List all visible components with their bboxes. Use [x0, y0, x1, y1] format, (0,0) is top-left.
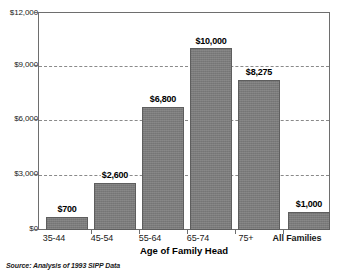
y-tick-label-12000: $12,000: [2, 9, 38, 17]
x-tick-label-all-families: All Families: [263, 233, 331, 243]
bar-value-35-44: $700: [56, 205, 77, 214]
bar-value-75-plus: $8,275: [245, 68, 273, 77]
y-tick-label-6000: $6,000: [2, 115, 38, 123]
bar-value-all-families: $1,000: [295, 200, 323, 209]
bar-group-65-74: $10,000: [190, 12, 232, 230]
bar-45-54[interactable]: [94, 183, 136, 230]
bar-value-45-54: $2,600: [101, 171, 129, 180]
bar-group-all-families: $1,000: [288, 12, 330, 230]
bar-all-families[interactable]: [288, 212, 330, 230]
bar-value-65-74: $10,000: [194, 37, 227, 46]
x-axis-title: Age of Family Head: [38, 245, 330, 256]
bar-65-74[interactable]: [190, 48, 232, 230]
bar-group-55-64: $6,800: [142, 12, 184, 230]
y-tick-label-0: $0: [2, 225, 38, 233]
source-note: Source: Analysis of 1993 SIPP Data: [6, 262, 120, 270]
bar-75-plus[interactable]: [238, 80, 280, 230]
bars-layer: $700 $2,600 $6,800 $10,000 $8,275 $1,000: [38, 12, 330, 230]
bar-35-44[interactable]: [46, 217, 88, 230]
bar-55-64[interactable]: [142, 107, 184, 231]
bar-chart: $12,000 $9,000 $6,000 $3,000 $0 $700 $2,…: [0, 0, 338, 275]
bar-group-75-plus: $8,275: [238, 12, 280, 230]
y-tick-label-9000: $9,000: [2, 61, 38, 69]
bar-group-35-44: $700: [46, 12, 88, 230]
bar-value-55-64: $6,800: [149, 95, 177, 104]
bar-group-45-54: $2,600: [94, 12, 136, 230]
y-tick-label-3000: $3,000: [2, 170, 38, 178]
